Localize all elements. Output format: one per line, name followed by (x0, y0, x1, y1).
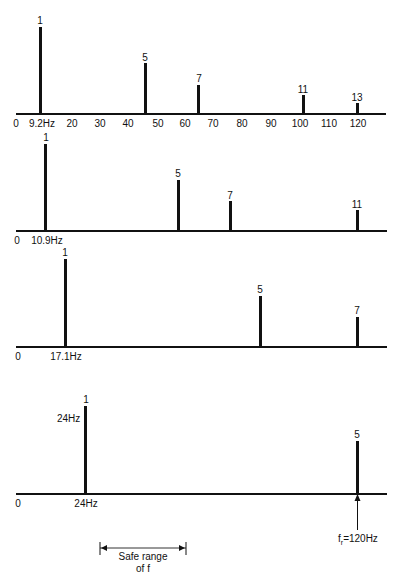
arrow-left-icon (101, 545, 107, 551)
resonance-frequency-label: fr=120Hz (338, 533, 378, 548)
safe-range-label-line1: Safe range (119, 551, 168, 562)
annotation-arrows (0, 0, 401, 579)
arrow-up-icon (355, 494, 361, 501)
arrow-right-icon (179, 545, 185, 551)
safe-range-label-line2: of f (136, 563, 150, 574)
